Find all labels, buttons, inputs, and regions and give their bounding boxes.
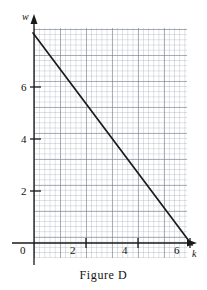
y-axis-arrow-icon	[31, 14, 38, 24]
x-tick-label-2: 2	[70, 245, 76, 256]
y-axis-label: w	[22, 12, 29, 22]
y-tick-label-4: 4	[21, 134, 27, 145]
y-tick-label-2: 2	[21, 186, 27, 197]
origin-label: 0	[20, 245, 26, 256]
x-tick-label-4: 4	[122, 245, 128, 256]
x-tick-label-6: 6	[174, 245, 180, 256]
x-axis-label: k	[192, 249, 196, 259]
figure-d-container: w k 6 4 2 0 2 4 6 Figure D	[0, 0, 207, 290]
figure-caption: Figure D	[0, 268, 207, 283]
plotted-line-series	[33, 33, 192, 245]
y-tick-label-6: 6	[21, 82, 27, 93]
